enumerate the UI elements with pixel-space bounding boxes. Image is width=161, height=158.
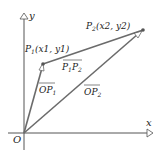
vector-p1p2-label: P1P2 [61, 62, 82, 73]
x-axis-label: x [146, 117, 152, 128]
point-p1-label: P1(x1, y1) [24, 44, 70, 55]
x-axis-arrow-icon [147, 129, 153, 137]
point-p2 [141, 28, 145, 32]
origin-label: O [13, 134, 21, 145]
vector-op1-label: OP1 [39, 85, 56, 96]
vector-diagram: y x O P1(x1, y1) P2(x2, y2) P1P2 OP1 OP2 [0, 0, 161, 158]
point-p1 [41, 62, 45, 66]
point-p2-label: P2(x2, y2) [85, 21, 131, 32]
y-axis-arrow-icon [20, 13, 28, 19]
vector-op1 [24, 68, 42, 133]
y-axis-label: y [28, 10, 35, 21]
vector-op2-label: OP2 [84, 87, 101, 98]
